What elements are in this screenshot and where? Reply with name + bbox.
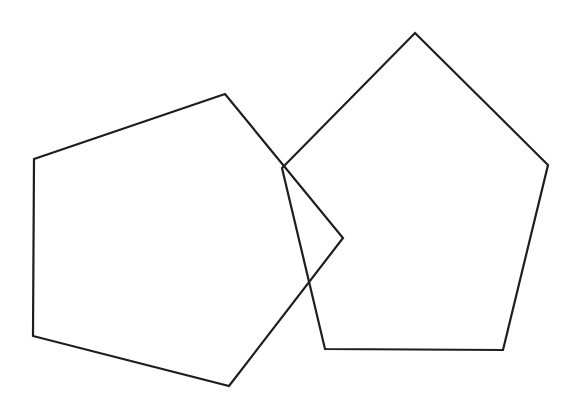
left-pentagon [33, 94, 343, 386]
right-pentagon [282, 33, 548, 350]
overlapping-pentagons-diagram [0, 0, 578, 410]
